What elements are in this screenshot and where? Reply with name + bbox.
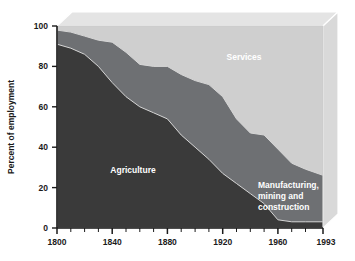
x-tick-label-1800: 1800 [48,237,67,247]
series-label-manufacturing-line2: mining and [258,191,303,201]
series-label-agriculture: Agriculture [110,165,156,175]
y-tick-label-0: 0 [43,223,48,233]
x-tick-label-1880: 1880 [158,237,177,247]
x-tick-label-1960: 1960 [268,237,287,247]
y-tick-label-80: 80 [39,61,49,71]
y-axis-title: Percent of employment [6,80,16,174]
x-tick-label-1993: 1993 [317,237,336,247]
box-top-face [57,12,338,26]
y-tick-label-100: 100 [34,21,48,31]
series-label-manufacturing-line1: Manufacturing, [258,180,319,190]
series-label-manufacturing-line3: construction [258,202,309,212]
box-right-face [323,12,338,228]
x-tick-label-1840: 1840 [103,237,122,247]
y-tick-label-40: 40 [39,142,49,152]
y-tick-label-60: 60 [39,102,49,112]
y-tick-label-20: 20 [39,183,49,193]
x-tick-label-1920: 1920 [213,237,232,247]
employment-share-area-chart: 100 80 60 40 20 0 Percent of employment [0,0,355,261]
chart-container: 100 80 60 40 20 0 Percent of employment [0,0,355,261]
series-label-services: Services [227,52,262,62]
x-major-ticks [57,228,323,234]
